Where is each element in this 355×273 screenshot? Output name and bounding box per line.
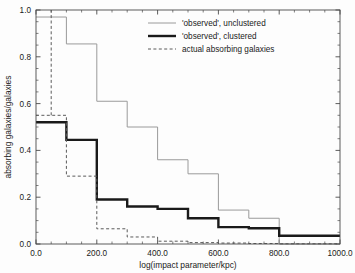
- y-tick-label: 0.6: [20, 100, 32, 109]
- x-tick-label: 600.0: [208, 249, 229, 258]
- x-axis-title: log(impact parameter/kpc): [139, 260, 236, 270]
- x-tick-label: 800.0: [269, 249, 290, 258]
- chart-figure: 0.0200.0400.0600.0800.01000.0 0.00.20.40…: [0, 0, 355, 273]
- x-tick-label: 0.0: [30, 249, 42, 258]
- figure-background: [0, 0, 355, 273]
- y-tick-label: 0.0: [20, 240, 32, 249]
- x-tick-label: 200.0: [87, 249, 108, 258]
- legend-label-2: actual absorbing galaxies: [182, 45, 274, 54]
- x-tick-label: 400.0: [147, 249, 168, 258]
- y-tick-label: 1.0: [20, 6, 32, 15]
- y-tick-label: 0.8: [20, 53, 32, 62]
- y-tick-label: 0.4: [20, 146, 32, 155]
- legend-label-0: 'observed', unclustered: [182, 19, 266, 28]
- x-tick-label: 1000.0: [327, 249, 352, 258]
- legend-label-1: 'observed', clustered: [182, 32, 257, 41]
- y-axis-title: absorbing galaxies/galaxies: [3, 76, 13, 179]
- y-tick-label: 0.2: [20, 193, 32, 202]
- chart-canvas: 0.0200.0400.0600.0800.01000.0 0.00.20.40…: [0, 0, 355, 273]
